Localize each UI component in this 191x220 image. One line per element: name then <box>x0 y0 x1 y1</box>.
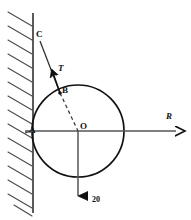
label-tension-t: T <box>58 64 64 73</box>
label-point-b: B <box>62 86 68 95</box>
label-weight-value: 20 <box>92 196 100 204</box>
free-body-diagram <box>0 0 191 220</box>
label-point-c: C <box>36 30 43 39</box>
tension-force-arrow <box>52 70 60 93</box>
radius-dashed-BO <box>60 93 78 131</box>
figure-canvas: C T B A O R 20 <box>0 0 191 220</box>
label-center-o: O <box>80 122 87 131</box>
wall-hatching <box>8 12 32 216</box>
label-point-a: A <box>29 126 36 135</box>
label-reaction-r: R <box>166 112 172 121</box>
